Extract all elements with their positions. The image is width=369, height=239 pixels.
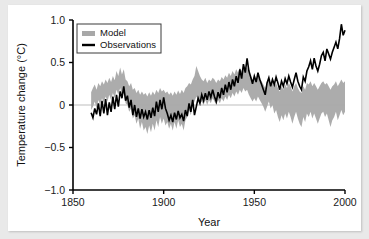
x-tick-label: 1850 — [61, 196, 85, 208]
y-tick-label: −1.0 — [44, 184, 65, 196]
chart-legend: Model Observations — [77, 24, 161, 53]
y-tick-label: −0.5 — [44, 141, 65, 153]
y-tick-label: 0.5 — [50, 56, 65, 68]
legend-label-observations: Observations — [100, 39, 156, 50]
x-tick-label: 1950 — [243, 196, 267, 208]
legend-label-model: Model — [100, 27, 126, 38]
legend-swatch-model — [82, 31, 95, 36]
temperature-change-chart: 1.00.50−0.5−1.0 1850190019502000 Year Te… — [8, 5, 361, 231]
y-tick-label: 0 — [59, 99, 65, 111]
x-axis-title: Year — [198, 216, 221, 228]
x-tick-label: 1900 — [152, 196, 176, 208]
figure-card: 1.00.50−0.5−1.0 1850190019502000 Year Te… — [8, 5, 361, 231]
x-tick-label: 2000 — [333, 196, 357, 208]
y-tick-label: 1.0 — [50, 14, 65, 26]
chart-container: 1.00.50−0.5−1.0 1850190019502000 Year Te… — [8, 5, 361, 231]
y-axis-title: Temperature change (°C) — [15, 43, 27, 167]
